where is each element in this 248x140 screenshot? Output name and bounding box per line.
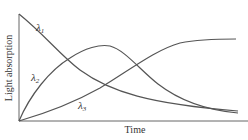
y-axis-label: Light absorption [3,35,14,101]
curve-lambda-1 [19,14,238,111]
label-lambda-2: λ2 [30,71,40,85]
curve-lambda-3 [19,39,236,121]
label-lambda-3: λ3 [77,99,87,113]
x-axis-label: Time [125,124,146,135]
label-lambda-1: λ1 [35,21,44,35]
absorption-diagram: λ1 λ2 λ3 Light absorption Time [0,0,248,140]
